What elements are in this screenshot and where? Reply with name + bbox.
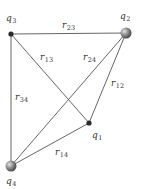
charge-label-q4-symbol: q	[6, 176, 12, 186]
charge-label-q2-subscript: 2	[126, 15, 130, 23]
charge-label-q3-symbol: q	[6, 13, 12, 23]
charge-label-q4: q4	[6, 176, 16, 188]
distance-label-r34-subscript: 34	[20, 96, 28, 104]
distance-label-r24: r24	[83, 52, 96, 64]
charge-diagram: r12r13r14r23r24r34q1q2q3q4	[0, 0, 141, 189]
distance-label-r24-subscript: 24	[88, 56, 96, 64]
charge-label-q1-subscript: 1	[98, 134, 102, 142]
distance-label-r14: r14	[55, 147, 68, 159]
distance-label-r12: r12	[111, 78, 124, 90]
distance-label-r34: r34	[15, 92, 28, 104]
charge-sphere-q2	[121, 28, 132, 39]
charge-label-q4-subscript: 4	[12, 180, 16, 188]
distance-lines	[11, 33, 126, 166]
distance-line-r14	[11, 123, 89, 166]
distance-label-r23: r23	[62, 20, 75, 32]
distance-label-r14-subscript: 14	[60, 151, 68, 159]
charge-label-q1: q1	[92, 130, 102, 142]
distance-line-r23	[11, 33, 126, 34]
charge-label-q3-subscript: 3	[12, 17, 16, 25]
distance-label-r12-subscript: 12	[116, 82, 124, 90]
charge-label-q2-symbol: q	[120, 11, 126, 21]
charge-sphere-q4	[6, 161, 17, 172]
distance-line-r13	[11, 34, 89, 123]
charge-label-q2: q2	[120, 11, 130, 23]
distance-label-r13-subscript: 13	[45, 56, 53, 64]
charge-dot-q1	[86, 120, 91, 125]
charge-label-q3: q3	[6, 13, 16, 25]
distance-line-r12	[89, 33, 126, 123]
charge-label-q1-symbol: q	[92, 130, 98, 140]
distance-label-r23-subscript: 23	[67, 24, 75, 32]
distance-line-r24	[11, 33, 126, 166]
distance-label-r13: r13	[40, 52, 53, 64]
charge-dot-q3	[8, 31, 13, 36]
